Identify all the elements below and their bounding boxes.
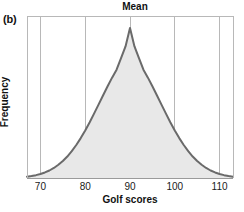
x-tick-label-80: 80 xyxy=(80,181,92,192)
x-tick-label-90: 90 xyxy=(124,181,136,192)
x-tick-label-70: 70 xyxy=(35,181,47,192)
x-tick-label-110: 110 xyxy=(212,181,228,192)
x-axis-tick-labels: 708090100110 xyxy=(35,181,228,192)
distribution-fill xyxy=(27,28,233,178)
plot-area: 708090100110 xyxy=(0,0,244,212)
x-tick-label-100: 100 xyxy=(166,181,183,192)
figure-panel: (b) Mean Frequency Golf scores 708090100… xyxy=(0,0,244,212)
